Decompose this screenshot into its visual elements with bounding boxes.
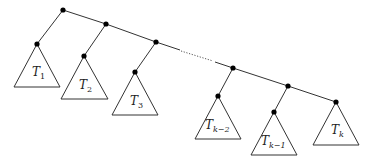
spine-node-k-2 bbox=[230, 65, 235, 70]
spine-node-2 bbox=[103, 21, 108, 26]
spine-edge-2 bbox=[106, 24, 156, 42]
spine-node-3 bbox=[153, 39, 158, 44]
branch-edge-3 bbox=[135, 42, 156, 72]
root-node bbox=[60, 7, 65, 12]
spine-node-k-1 bbox=[285, 83, 290, 88]
branch-edge-2 bbox=[84, 24, 106, 56]
subtree-root-2 bbox=[81, 53, 86, 58]
spine-edge-3 bbox=[156, 42, 180, 50]
comb-tree-diagram: T1 T2 T3 Tk−2 Tk−1 Tk bbox=[0, 0, 372, 163]
subtrees bbox=[14, 44, 359, 155]
spine-edge-4 bbox=[215, 62, 233, 68]
subtree-root-k bbox=[333, 99, 338, 104]
spine-ellipsis bbox=[181, 51, 213, 61]
spine-edge-1 bbox=[63, 10, 106, 24]
subtree-root-k-1 bbox=[271, 109, 276, 114]
spine-edge-5 bbox=[233, 68, 288, 86]
branch-edge-1 bbox=[37, 10, 63, 44]
branch-edge-k-1 bbox=[274, 86, 288, 112]
subtree-root-k-2 bbox=[215, 93, 220, 98]
subtree-root-1 bbox=[34, 41, 39, 46]
branch-edge-k-2 bbox=[218, 68, 233, 96]
subtree-root-3 bbox=[132, 69, 137, 74]
labels: T1 T2 T3 Tk−2 Tk−1 Tk bbox=[32, 65, 344, 150]
spine-edge-6 bbox=[288, 86, 336, 102]
